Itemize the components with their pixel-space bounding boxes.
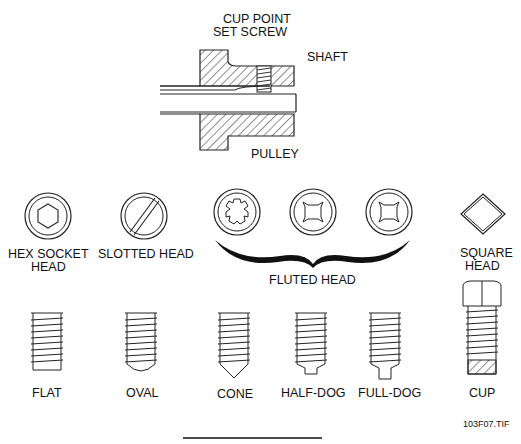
flat-point-label: FLAT [32, 387, 62, 400]
slotted-head-icon [121, 193, 167, 239]
flat-point-icon [31, 313, 63, 370]
hex-socket-head-icon [25, 193, 71, 239]
square-head-icon [461, 194, 505, 234]
set-screw-label-line2: SET SCREW [213, 26, 287, 39]
fluted-head-4-point-alt-icon [366, 189, 412, 235]
square-head-label-line2: HEAD [465, 260, 500, 273]
fluted-head-4-point-icon [290, 189, 336, 235]
pulley-label: PULLEY [251, 148, 299, 161]
cone-point-label: CONE [217, 388, 253, 401]
oval-point-icon [125, 313, 157, 371]
full-dog-point-icon [369, 313, 401, 379]
cup-point-icon [463, 281, 501, 374]
hex-socket-head-label-line2: HEAD [31, 261, 66, 274]
shaft-label: SHAFT [307, 51, 348, 64]
half-dog-point-icon [295, 313, 327, 374]
cup-point-label: CUP [469, 387, 495, 400]
half-dog-point-label: HALF-DOG [281, 387, 346, 400]
full-dog-point-label: FULL-DOG [358, 387, 421, 400]
fluted-head-label: FLUTED HEAD [269, 274, 356, 287]
diagram-canvas [0, 0, 521, 444]
fluted-head-6-point-icon [214, 189, 260, 235]
cone-point-icon [218, 313, 250, 378]
oval-point-label: OVAL [126, 387, 158, 400]
slotted-head-label: SLOTTED HEAD [98, 248, 194, 261]
pulley-cross-section [160, 50, 296, 150]
figure-id: 103F07.TIF [463, 418, 510, 431]
fluted-brace [215, 240, 410, 268]
